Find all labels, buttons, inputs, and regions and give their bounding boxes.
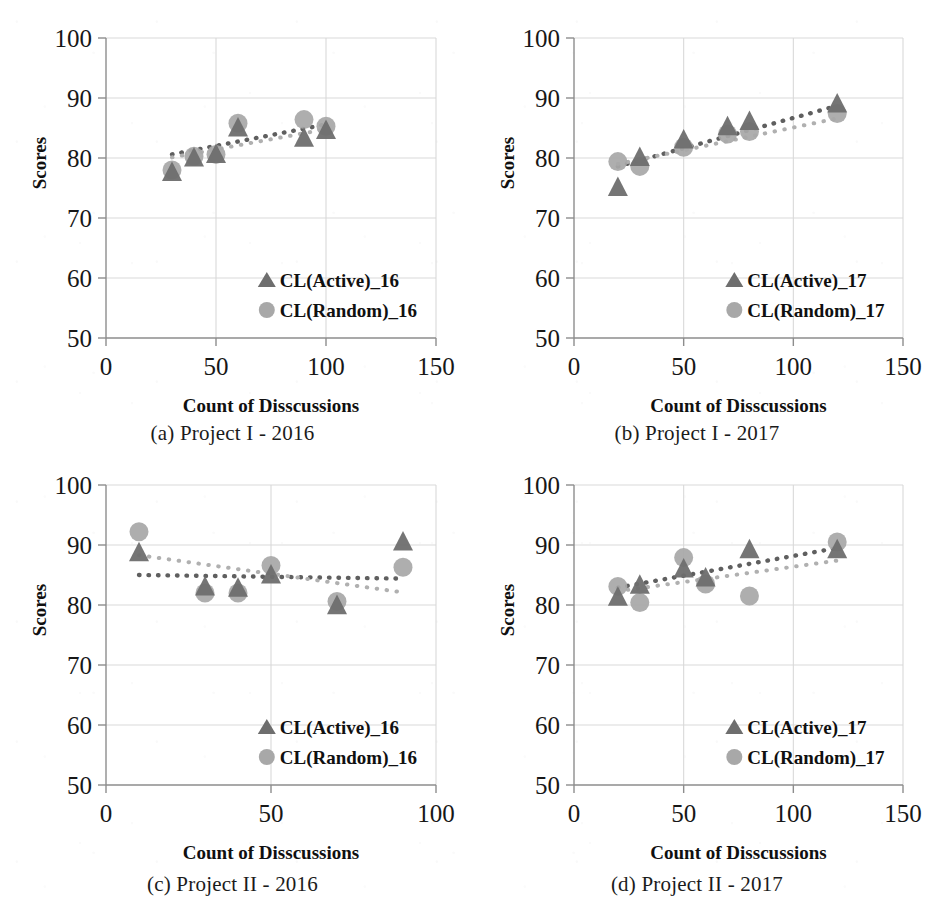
data-point-active: [718, 116, 738, 136]
legend-label: CL(Random)_17: [747, 300, 885, 322]
panel-c-caption: (c) Project II - 2016: [0, 872, 465, 897]
y-axis-tick-label: 100: [55, 472, 93, 499]
panel-b-caption: (b) Project I - 2017: [465, 421, 929, 446]
x-axis-tick-label: 150: [884, 800, 922, 827]
trendline-active: [618, 548, 837, 588]
data-point-random: [740, 587, 759, 606]
x-axis-tick-label: 100: [307, 353, 345, 380]
chart-d: 5060708090100050100150Count of Disscussi…: [465, 460, 929, 913]
x-axis-tick-label: 0: [568, 353, 581, 380]
x-axis-tick-label: 100: [775, 353, 813, 380]
chart-c: 5060708090100050100Count of Disscussions…: [0, 460, 465, 913]
x-axis-title: Count of Disscussions: [183, 842, 359, 863]
legend-marker-active: [725, 719, 743, 734]
data-point-active: [393, 531, 413, 551]
y-axis-tick-label: 90: [67, 85, 92, 112]
x-axis-tick-label: 100: [417, 800, 455, 827]
legend-marker-random: [726, 749, 742, 765]
y-axis-tick-label: 70: [535, 652, 560, 679]
y-axis-tick-label: 50: [535, 772, 560, 799]
x-axis-tick-label: 50: [671, 800, 696, 827]
legend-marker-active: [725, 272, 743, 287]
y-axis-tick-label: 70: [67, 652, 92, 679]
data-point-random: [394, 558, 413, 577]
y-axis-tick-label: 80: [535, 592, 560, 619]
data-point-active: [739, 110, 759, 130]
y-axis-tick-label: 80: [535, 145, 560, 172]
y-axis-tick-label: 100: [55, 25, 93, 52]
trendline-random: [618, 561, 837, 592]
y-axis-tick-label: 50: [535, 325, 560, 352]
panel-d: 5060708090100050100150Count of Disscussi…: [465, 460, 929, 913]
y-axis-tick-label: 90: [535, 85, 560, 112]
y-axis-tick-label: 80: [67, 592, 92, 619]
data-point-active: [195, 576, 215, 596]
data-point-active: [608, 176, 628, 196]
x-axis-tick-label: 50: [259, 800, 284, 827]
y-axis-title: Scores: [497, 137, 518, 189]
legend-marker-random: [726, 302, 742, 318]
legend-marker-random: [259, 749, 275, 765]
legend-label: CL(Random)_16: [280, 747, 417, 769]
y-axis-tick-label: 60: [67, 265, 92, 292]
data-point-active: [294, 127, 314, 147]
x-axis-tick-label: 100: [775, 800, 813, 827]
legend-marker-active: [258, 272, 276, 287]
x-axis-title: Count of Disscussions: [183, 395, 359, 416]
y-axis-tick-label: 100: [523, 25, 561, 52]
x-axis-tick-label: 50: [204, 353, 229, 380]
y-axis-tick-label: 80: [67, 145, 92, 172]
x-axis-tick-label: 50: [671, 353, 696, 380]
y-axis-tick-label: 50: [67, 772, 92, 799]
panel-d-caption: (d) Project II - 2017: [465, 872, 929, 897]
data-point-random: [630, 593, 649, 612]
x-axis-tick-label: 0: [100, 800, 113, 827]
y-axis-tick-label: 60: [67, 712, 92, 739]
x-axis-tick-label: 0: [100, 353, 113, 380]
figure-grid: 5060708090100050100150Count of Disscussi…: [0, 0, 929, 913]
legend-marker-random: [259, 302, 275, 318]
data-point-random: [295, 110, 314, 129]
y-axis-title: Scores: [29, 137, 50, 189]
y-axis-tick-label: 70: [535, 205, 560, 232]
legend-label: CL(Active)_17: [747, 270, 867, 292]
data-point-active: [827, 93, 847, 113]
panel-a: 5060708090100050100150Count of Disscussi…: [0, 0, 465, 460]
panel-b: 5060708090100050100150Count of Disscussi…: [465, 0, 929, 460]
data-point-active: [674, 129, 694, 149]
y-axis-tick-label: 60: [535, 265, 560, 292]
y-axis-tick-label: 90: [67, 532, 92, 559]
chart-b: 5060708090100050100150Count of Disscussi…: [465, 0, 929, 460]
x-axis-title: Count of Disscussions: [650, 842, 826, 863]
y-axis-tick-label: 50: [67, 325, 92, 352]
legend-label: CL(Active)_16: [280, 717, 399, 739]
legend-label: CL(Active)_17: [747, 717, 867, 739]
y-axis-tick-label: 100: [523, 472, 561, 499]
y-axis-tick-label: 70: [67, 205, 92, 232]
legend-label: CL(Random)_16: [280, 300, 417, 322]
y-axis-title: Scores: [497, 584, 518, 636]
x-axis-tick-label: 150: [417, 353, 455, 380]
data-point-random: [608, 152, 627, 171]
x-axis-tick-label: 0: [568, 800, 581, 827]
y-axis-tick-label: 60: [535, 712, 560, 739]
data-point-random: [130, 522, 149, 541]
panel-c: 5060708090100050100Count of Disscussions…: [0, 460, 465, 913]
data-point-active: [739, 539, 759, 559]
legend-label: CL(Random)_17: [747, 747, 885, 769]
chart-a: 5060708090100050100150Count of Disscussi…: [0, 0, 465, 460]
y-axis-tick-label: 90: [535, 532, 560, 559]
panel-a-caption: (a) Project I - 2016: [0, 421, 465, 446]
legend-label: CL(Active)_16: [280, 270, 399, 292]
y-axis-title: Scores: [29, 584, 50, 636]
x-axis-title: Count of Disscussions: [650, 395, 826, 416]
legend-marker-active: [258, 719, 276, 734]
x-axis-tick-label: 150: [884, 353, 922, 380]
